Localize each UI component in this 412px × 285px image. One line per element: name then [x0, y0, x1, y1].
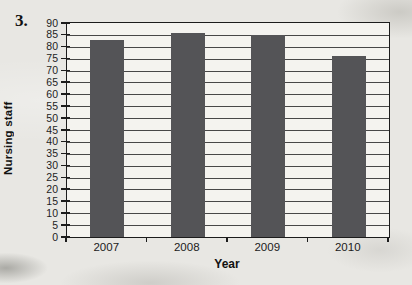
y-tick-label-5: 5	[0, 219, 58, 231]
y-tick-mark-50	[61, 117, 70, 119]
y-tick-label-70: 70	[0, 64, 58, 76]
y-tick-label-20: 20	[0, 183, 58, 195]
y-tick-mark-30	[61, 165, 70, 167]
y-tick-mark-20	[61, 188, 70, 190]
y-tick-mark-35	[61, 153, 70, 155]
y-tick-mark-25	[61, 177, 70, 179]
y-tick-label-0: 0	[0, 231, 58, 243]
x-tick-mark-1	[146, 237, 148, 242]
y-tick-label-75: 75	[0, 52, 58, 64]
y-tick-label-85: 85	[0, 28, 58, 40]
x-tick-label-2008: 2008	[159, 241, 215, 253]
scanned-document-page: 3. Nursing staff 05101520253035404550556…	[0, 0, 412, 285]
y-tick-mark-10	[61, 212, 70, 214]
bar-2007	[90, 40, 124, 237]
y-tick-label-15: 15	[0, 195, 58, 207]
y-tick-label-50: 50	[0, 112, 58, 124]
y-tick-mark-5	[61, 224, 70, 226]
y-tick-mark-80	[61, 46, 70, 48]
y-tick-mark-60	[61, 93, 70, 95]
y-tick-label-10: 10	[0, 207, 58, 219]
y-tick-label-30: 30	[0, 159, 58, 171]
y-tick-mark-85	[61, 34, 70, 36]
x-tick-label-2010: 2010	[320, 241, 376, 253]
y-tick-mark-55	[61, 105, 70, 107]
bar-2009	[251, 35, 285, 237]
y-tick-label-55: 55	[0, 100, 58, 112]
x-tick-mark-3	[307, 237, 309, 242]
y-tick-mark-90	[61, 22, 70, 24]
y-tick-mark-75	[61, 58, 70, 60]
x-axis-title: Year	[66, 257, 388, 271]
y-tick-mark-70	[61, 70, 70, 72]
y-tick-label-80: 80	[0, 40, 58, 52]
bar-2010	[332, 56, 366, 237]
y-tick-mark-40	[61, 141, 70, 143]
y-tick-mark-45	[61, 129, 70, 131]
bar-2008	[171, 33, 205, 237]
y-tick-label-25: 25	[0, 171, 58, 183]
x-tick-mark-2	[226, 237, 228, 242]
y-tick-label-40: 40	[0, 135, 58, 147]
x-tick-label-2009: 2009	[239, 241, 295, 253]
x-tick-mark-4	[387, 237, 389, 242]
y-tick-label-90: 90	[0, 17, 58, 29]
y-tick-label-35: 35	[0, 147, 58, 159]
y-tick-mark-65	[61, 81, 70, 83]
bar-chart-plot-area	[66, 22, 390, 238]
x-tick-mark-0	[65, 237, 67, 242]
y-tick-label-60: 60	[0, 88, 58, 100]
y-tick-mark-15	[61, 200, 70, 202]
gridline-85	[67, 35, 389, 36]
x-tick-label-2007: 2007	[78, 241, 134, 253]
y-tick-label-65: 65	[0, 76, 58, 88]
y-tick-label-45: 45	[0, 124, 58, 136]
